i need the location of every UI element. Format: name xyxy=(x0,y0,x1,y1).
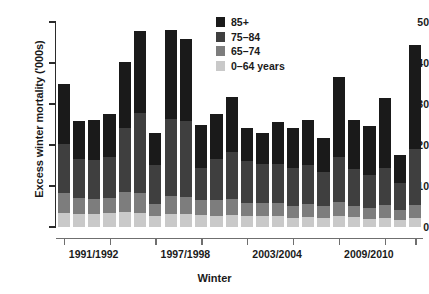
bar-segment xyxy=(58,84,70,144)
bar[interactable] xyxy=(180,39,192,227)
bar-segment xyxy=(103,114,115,156)
bar[interactable] xyxy=(317,138,329,227)
bar-segment xyxy=(165,214,177,227)
bar-segment xyxy=(195,215,207,227)
bar-segment xyxy=(165,30,177,119)
y-tick-10 xyxy=(49,185,55,186)
bar[interactable] xyxy=(256,133,268,227)
bar-segment xyxy=(363,126,375,175)
bar-segment xyxy=(165,119,177,196)
x-tick-label: 1997/1998 xyxy=(161,248,211,260)
x-axis-line xyxy=(56,238,423,239)
bar-segment xyxy=(210,159,222,200)
bar[interactable] xyxy=(241,128,253,227)
legend: 85+75–8465–740–64 years xyxy=(216,15,285,73)
bar-segment xyxy=(119,62,131,128)
bar-segment xyxy=(256,164,268,203)
legend-swatch-icon xyxy=(216,17,225,27)
legend-item[interactable]: 75–84 xyxy=(216,30,285,45)
bar-segment xyxy=(88,160,100,199)
legend-swatch-icon xyxy=(216,46,225,56)
bar-segment xyxy=(333,202,345,216)
bar-segment xyxy=(134,213,146,227)
bar-segment xyxy=(195,125,207,168)
bar[interactable] xyxy=(302,120,314,227)
legend-item[interactable]: 85+ xyxy=(216,15,285,30)
bar-segment xyxy=(348,169,360,206)
bar-segment xyxy=(287,168,299,205)
bar[interactable] xyxy=(363,126,375,227)
bar-segment xyxy=(302,204,314,217)
y-tick-0 xyxy=(49,226,55,227)
bar-segment xyxy=(348,217,360,227)
bar-segment xyxy=(333,157,345,202)
bar-segment xyxy=(210,216,222,227)
bar-segment xyxy=(119,128,131,192)
bar[interactable] xyxy=(73,121,85,227)
x-axis-title: Winter xyxy=(0,272,429,284)
bar-segment xyxy=(195,168,207,200)
bar-segment xyxy=(272,164,284,203)
bar-segment xyxy=(348,206,360,217)
bar-segment xyxy=(180,214,192,227)
y-tick-30 xyxy=(49,103,55,104)
bar[interactable] xyxy=(195,125,207,227)
bar-segment xyxy=(88,120,100,159)
bar-segment xyxy=(241,216,253,227)
x-tick xyxy=(339,238,340,245)
bar[interactable] xyxy=(226,97,238,227)
legend-label: 65–74 xyxy=(231,45,260,57)
bar-segment xyxy=(409,218,421,227)
legend-swatch-icon xyxy=(216,61,225,71)
bar-segment xyxy=(256,203,268,216)
bar[interactable] xyxy=(272,122,284,227)
bar[interactable] xyxy=(409,45,421,227)
bar-segment xyxy=(88,214,100,227)
bar-segment xyxy=(103,213,115,227)
bar-segment xyxy=(394,210,406,219)
legend-item[interactable]: 0–64 years xyxy=(216,59,285,74)
bar-segment xyxy=(134,193,146,213)
bar-segment xyxy=(272,122,284,164)
bar-segment xyxy=(363,219,375,227)
excess-winter-mortality-chart: Excess winter mortality ('000s) 01020304… xyxy=(0,0,429,294)
x-tick-label: 2009/2010 xyxy=(344,248,394,260)
bar-segment xyxy=(88,199,100,215)
bar[interactable] xyxy=(394,155,406,227)
bar[interactable] xyxy=(149,133,161,227)
bar-segment xyxy=(302,120,314,164)
bar[interactable] xyxy=(119,62,131,227)
bar-segment xyxy=(226,152,238,198)
bar-segment xyxy=(379,168,391,206)
bar-segment xyxy=(363,175,375,208)
bar-segment xyxy=(134,31,146,113)
bar-segment xyxy=(317,218,329,227)
bar[interactable] xyxy=(333,77,345,227)
bar-segment xyxy=(180,121,192,196)
x-tick xyxy=(110,238,111,245)
bar-segment xyxy=(287,218,299,227)
bar-segment xyxy=(226,97,238,152)
bar-segment xyxy=(256,133,268,164)
bar[interactable] xyxy=(210,114,222,227)
bar-segment xyxy=(256,216,268,227)
bar[interactable] xyxy=(287,128,299,227)
bar-segment xyxy=(119,192,131,213)
bar[interactable] xyxy=(103,114,115,227)
bar[interactable] xyxy=(165,30,177,227)
bar[interactable] xyxy=(134,31,146,227)
y-tick-20 xyxy=(49,144,55,145)
bar-segment xyxy=(119,212,131,227)
bar-segment xyxy=(272,216,284,227)
bar-segment xyxy=(58,193,70,214)
bar-segment xyxy=(394,155,406,183)
x-tick xyxy=(385,238,386,245)
bar[interactable] xyxy=(58,84,70,227)
bar[interactable] xyxy=(379,98,391,227)
x-tick xyxy=(293,238,294,245)
bar-segment xyxy=(409,149,421,205)
bar[interactable] xyxy=(88,120,100,227)
bar[interactable] xyxy=(348,120,360,227)
x-tick xyxy=(201,238,202,245)
legend-item[interactable]: 65–74 xyxy=(216,44,285,59)
